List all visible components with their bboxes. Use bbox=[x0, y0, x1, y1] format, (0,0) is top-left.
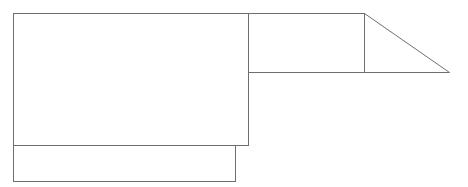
bottom-rectangle bbox=[14, 146, 236, 182]
triangle-shape bbox=[365, 14, 450, 73]
main-rectangle bbox=[14, 14, 249, 146]
diagram-canvas bbox=[0, 0, 468, 187]
right-rectangle bbox=[249, 14, 365, 73]
